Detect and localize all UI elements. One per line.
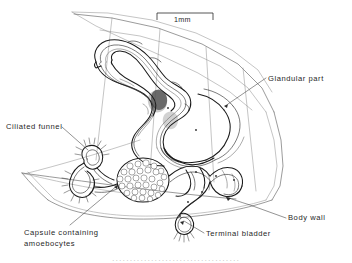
leader-capsule <box>70 185 118 225</box>
label-capsule-amoebocytes: Capsule containing amoebocytes <box>24 228 99 249</box>
figure-container: 1mm Glandular part Ciliated funnel Capsu… <box>0 0 352 263</box>
terminal-bladder-group <box>167 107 242 242</box>
label-body-wall: Body wall <box>288 213 325 224</box>
label-capsule-line2: amoebocytes <box>24 239 99 250</box>
scale-bar-label: 1mm <box>174 15 191 26</box>
glandular-part-group <box>95 40 245 168</box>
leader-glandular-part <box>228 78 266 104</box>
ciliated-funnel-group <box>62 138 119 203</box>
label-capsule-line1: Capsule containing <box>24 228 99 239</box>
terminal-tuft <box>174 232 194 242</box>
partial-caption-strip: ···································· <box>0 256 352 263</box>
leader-ciliated-funnel <box>62 127 88 150</box>
capsule-amoebocytes-group <box>117 158 169 202</box>
label-ciliated-funnel: Ciliated funnel <box>6 122 62 133</box>
cilia-upper <box>75 138 109 155</box>
label-glandular-part: Glandular part <box>268 74 324 85</box>
label-terminal-bladder: Terminal bladder <box>206 229 271 240</box>
